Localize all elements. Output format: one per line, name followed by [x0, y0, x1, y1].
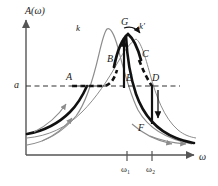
point-label-A: A	[66, 72, 72, 82]
point-label-G: G	[121, 17, 128, 27]
curve-label-k: k	[76, 24, 80, 33]
x-tick-label-omega2: ω₂	[146, 165, 155, 174]
resonance-hysteresis-figure: A(ω) ω a ω₁ ω₂ k k′ A B C D E F G	[0, 0, 218, 186]
figure-canvas	[0, 0, 218, 186]
y-axis-label: A(ω)	[25, 6, 45, 16]
linear-resonance-curve-k	[27, 29, 192, 145]
curve-label-k-prime: k′	[139, 22, 145, 31]
nonlinear-branch-lower-left	[27, 86, 87, 134]
amplitude-level-label: a	[14, 80, 19, 90]
point-label-B: B	[107, 54, 113, 64]
direction-arrow-peak	[124, 27, 140, 33]
point-label-C: C	[142, 49, 149, 59]
point-label-F: F	[138, 123, 144, 133]
x-axis-label: ω	[199, 152, 206, 162]
point-label-D: D	[152, 73, 159, 83]
point-label-E: E	[126, 73, 132, 83]
x-tick-label-omega1: ω₁	[121, 165, 130, 174]
axes-group	[26, 20, 194, 161]
